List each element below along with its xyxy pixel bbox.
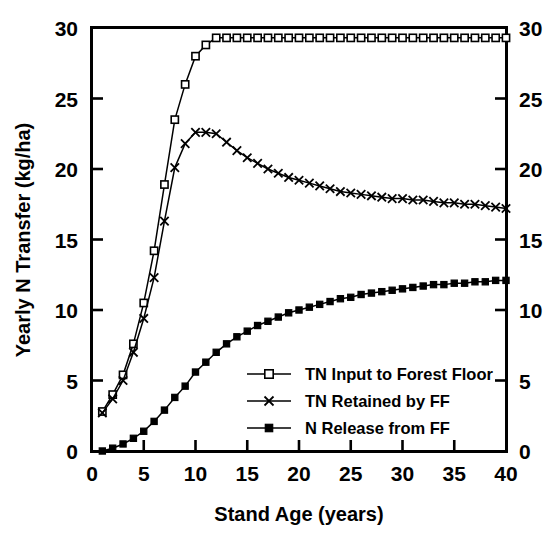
marker-open-square [306, 34, 313, 41]
legend-item-1[interactable]: TN Input to Forest Floor [247, 365, 493, 383]
marker-open-square [285, 34, 292, 41]
marker-filled-square [296, 307, 302, 313]
marker-filled-square [110, 445, 116, 451]
marker-filled-square [120, 441, 126, 447]
marker-filled-square [348, 294, 354, 300]
marker-open-square [192, 53, 199, 60]
chart-figure: 0510152025303540 051015202530 0510152025… [0, 0, 554, 535]
marker-open-square [347, 34, 354, 41]
y-tick-label-left-10: 10 [55, 299, 78, 322]
y-tick-label-left-25: 25 [55, 88, 79, 111]
y-tick-label-right-5: 5 [519, 370, 531, 393]
marker-filled-square [358, 291, 364, 297]
marker-filled-square [99, 448, 105, 454]
marker-cross [264, 165, 272, 173]
series-line-1 [102, 38, 506, 412]
legend-label-2: TN Retained by FF [305, 392, 450, 410]
marker-cross [243, 154, 251, 162]
marker-open-square [409, 34, 416, 41]
x-tick-label-20: 20 [287, 462, 310, 485]
y-tick-label-right-15: 15 [519, 229, 543, 252]
marker-filled-square [451, 280, 457, 286]
marker-filled-square [420, 283, 426, 289]
marker-filled-square [306, 304, 312, 310]
x-tick-label-30: 30 [391, 462, 414, 485]
marker-open-square [461, 34, 468, 41]
marker-filled-square [327, 298, 333, 304]
marker-open-square [233, 34, 240, 41]
marker-open-square [471, 34, 478, 41]
marker-open-square [213, 34, 220, 41]
marker-open-square [502, 34, 509, 41]
marker-filled-square [286, 310, 292, 316]
plot-frame [92, 28, 507, 452]
x-tick-label-0: 0 [86, 462, 98, 485]
marker-open-square [451, 34, 458, 41]
legend-item-2[interactable]: TN Retained by FF [247, 392, 450, 410]
y-tick-label-right-20: 20 [519, 158, 542, 181]
marker-cross [222, 138, 230, 146]
marker-open-square [326, 34, 333, 41]
marker-cross [233, 146, 241, 154]
marker-filled-square [317, 301, 323, 307]
marker-cross [253, 159, 261, 167]
marker-filled-square [172, 394, 178, 400]
y-axis-ticks-right [495, 99, 506, 381]
marker-open-square [378, 34, 385, 41]
marker-filled-square [182, 383, 188, 389]
x-tick-label-25: 25 [339, 462, 363, 485]
marker-cross [274, 169, 282, 177]
marker-open-square [399, 34, 406, 41]
x-tick-label-10: 10 [184, 462, 207, 485]
marker-cross [181, 139, 189, 147]
y-tick-label-left-0: 0 [66, 440, 78, 463]
marker-filled-square [337, 296, 343, 302]
marker-open-square [202, 41, 209, 48]
marker-filled-square [141, 428, 147, 434]
legend-item-3[interactable]: N Release from FF [247, 419, 450, 437]
marker-open-square [151, 247, 158, 254]
marker-open-square [337, 34, 344, 41]
chart-legend: TN Input to Forest FloorTN Retained by F… [247, 365, 493, 437]
marker-cross [284, 173, 292, 181]
marker-filled-square [265, 318, 271, 324]
x-tick-label-5: 5 [138, 462, 150, 485]
marker-filled-square [130, 435, 136, 441]
line-chart: 0510152025303540 051015202530 0510152025… [0, 0, 554, 535]
x-tick-label-15: 15 [236, 462, 260, 485]
marker-filled-square [151, 418, 157, 424]
y-axis-ticks-left [92, 99, 103, 381]
marker-open-square [316, 34, 323, 41]
y-tick-label-right-30: 30 [519, 17, 542, 40]
marker-filled-square [399, 286, 405, 292]
y-axis-tick-labels-left: 051015202530 [55, 17, 79, 463]
y-axis-tick-labels-right: 051015202530 [519, 17, 543, 463]
legend-label-1: TN Input to Forest Floor [305, 365, 493, 383]
y-tick-label-right-25: 25 [519, 88, 543, 111]
marker-filled-square [255, 322, 261, 328]
x-axis-tick-labels: 0510152025303540 [86, 462, 518, 485]
marker-cross [295, 176, 303, 184]
marker-open-square [223, 34, 230, 41]
marker-cross [305, 179, 313, 187]
marker-cross [316, 182, 324, 190]
marker-open-square [492, 34, 499, 41]
marker-open-square [264, 34, 271, 41]
marker-open-square [368, 34, 375, 41]
legend-label-3: N Release from FF [305, 419, 450, 437]
marker-open-square [430, 34, 437, 41]
marker-open-square [182, 81, 189, 88]
y-tick-label-left-15: 15 [55, 229, 79, 252]
y-tick-label-left-5: 5 [66, 370, 78, 393]
marker-filled-square [441, 282, 447, 288]
marker-filled-square [192, 369, 198, 375]
marker-filled-square [462, 280, 468, 286]
marker-cross [326, 185, 334, 193]
marker-filled-square [234, 334, 240, 340]
marker-filled-square [368, 290, 374, 296]
y-tick-label-right-0: 0 [519, 440, 531, 463]
marker-filled-square [203, 359, 209, 365]
marker-filled-square [213, 349, 219, 355]
x-axis-title: Stand Age (years) [214, 503, 383, 525]
marker-filled-square [472, 279, 478, 285]
